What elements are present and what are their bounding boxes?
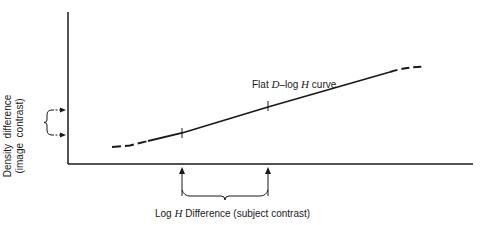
y-axis-label-line2: (image contrast) — [14, 86, 26, 186]
x-arrow-right — [265, 167, 271, 196]
y-axis-label-line1: Density difference — [2, 86, 14, 186]
x-axis-label: Log H Difference (subject contrast) — [155, 207, 310, 219]
curve-label: Flat D–log H curve — [252, 78, 336, 90]
curve-shoulder-dashed — [390, 67, 425, 73]
x-brace — [182, 190, 268, 200]
diagram-canvas — [0, 0, 488, 225]
x-arrow-left — [179, 167, 185, 196]
y-axis-label: Density difference (image contrast) — [2, 86, 56, 186]
curve-toe-dashed — [112, 141, 148, 147]
